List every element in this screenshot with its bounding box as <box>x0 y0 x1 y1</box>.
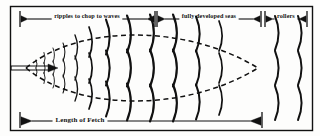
wave-crest-arc <box>36 68 37 76</box>
arrow-right-icon-wind <box>48 64 58 72</box>
wave-crest-arc <box>173 50 177 87</box>
wave-crest-arc <box>127 84 131 121</box>
wave-crest-arc <box>173 15 177 52</box>
wave-crest-arc <box>53 48 54 62</box>
wave-crest-arc <box>219 53 222 83</box>
fetch-envelope-top <box>26 35 258 68</box>
wave-crest-arc <box>173 85 177 122</box>
wave-crest-arc <box>298 86 302 120</box>
wave-crest-arc <box>63 59 65 77</box>
wave-crest-arc <box>275 86 279 120</box>
wave-crest-arc <box>44 63 45 74</box>
arrow-right-icon-seg0-left <box>21 16 28 22</box>
wave-crest-arc <box>36 60 37 68</box>
wave-crest-arc <box>127 50 131 87</box>
wave-crest-arc <box>63 75 65 93</box>
wave-crest-arc <box>219 21 222 51</box>
wave-crest-arc <box>219 85 222 115</box>
segment-label-fully-developed: fully developed seas <box>182 13 236 19</box>
wave-crest-arc <box>75 56 78 80</box>
wave-crest-arc <box>75 77 78 101</box>
segment-label-ripples: ripples to chop to waves <box>54 13 120 19</box>
wave-crest-arc <box>150 85 154 122</box>
wave-crest-arc <box>275 51 279 85</box>
wave-fetch-diagram: ripples to chop to waves fully developed… <box>0 0 320 136</box>
arrow-right-icon-fetch-left <box>21 117 32 125</box>
wave-crest-arc <box>298 51 302 85</box>
wave-crest-arc <box>196 17 200 52</box>
wave-crest-arc <box>75 35 78 59</box>
wave-crest-arc <box>298 16 302 50</box>
wave-crest-arc <box>196 85 200 120</box>
wave-crest-arc <box>53 74 54 88</box>
arrow-right-icon-seg1-left <box>158 16 165 22</box>
fetch-envelope-bottom <box>26 68 258 101</box>
wave-crest-arc <box>44 73 45 84</box>
segment-label-rollers: rollers <box>277 13 295 19</box>
wave-crest-arc <box>150 50 154 87</box>
arrow-right-icon-seg2-left <box>266 16 273 22</box>
wave-crest-arc <box>63 43 65 61</box>
wave-crest-arc <box>106 51 110 86</box>
arrow-left-icon-fetch-right <box>250 117 261 125</box>
diagram-canvas <box>0 0 320 136</box>
wave-crest-arc <box>44 53 45 64</box>
wave-crest-arc <box>275 16 279 50</box>
arrow-left-icon-seg1-right <box>253 16 260 22</box>
length-of-fetch-label: Length of Fetch <box>56 117 105 124</box>
wave-crest-arc <box>127 16 131 53</box>
wave-crest-arc <box>196 51 200 86</box>
